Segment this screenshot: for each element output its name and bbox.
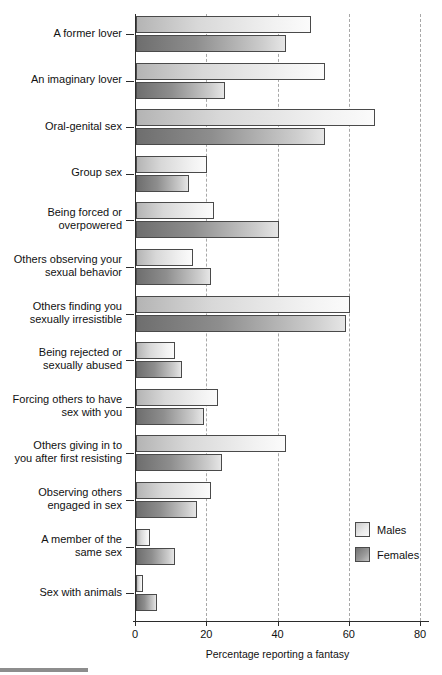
category-label-line: Others observing your: [0, 253, 122, 266]
category-label: An imaginary lover: [0, 73, 122, 86]
bar-males: [136, 529, 150, 546]
bar-females: [136, 408, 204, 425]
chart-legend: Males Females: [355, 522, 419, 572]
category-label: A member of thesame sex: [0, 533, 122, 559]
bar-group: [136, 109, 426, 145]
category-label: Being rejected orsexually abused: [0, 346, 122, 372]
category-label-line: Being forced or: [0, 206, 122, 219]
tick-label-80: 80: [400, 628, 440, 640]
bar-males: [136, 156, 207, 173]
tick-label-20: 20: [186, 628, 226, 640]
bar-females: [136, 454, 222, 471]
bar-females: [136, 82, 225, 99]
category-label: Observing othersengaged in sex: [0, 486, 122, 512]
category-tick: [126, 127, 134, 128]
category-label-line: Forcing others to have: [0, 393, 122, 406]
tick-mark-0: [135, 621, 136, 626]
bar-group: [136, 389, 426, 425]
category-label-line: engaged in sex: [0, 499, 122, 512]
category-label-line: Oral-genital sex: [0, 120, 122, 133]
bar-males: [136, 389, 218, 406]
bar-group: [136, 16, 426, 52]
bar-males: [136, 575, 143, 592]
bar-group: [136, 296, 426, 332]
legend-swatch-females-icon: [355, 547, 370, 562]
bar-males: [136, 16, 311, 33]
bar-females: [136, 175, 189, 192]
bar-group: [136, 435, 426, 471]
category-tick: [126, 547, 134, 548]
category-tick: [126, 407, 134, 408]
category-label-line: Sex with animals: [0, 586, 122, 599]
tick-mark-20: [206, 621, 207, 626]
category-label: Others giving in toyou after first resis…: [0, 439, 122, 465]
category-label: Sex with animals: [0, 586, 122, 599]
category-label: Forcing others to havesex with you: [0, 393, 122, 419]
bar-group: [136, 202, 426, 238]
category-label: Group sex: [0, 166, 122, 179]
bar-group: [136, 63, 426, 99]
category-tick: [126, 220, 134, 221]
legend-label-females: Females: [377, 549, 419, 561]
category-tick: [126, 360, 134, 361]
category-label-line: Being rejected or: [0, 346, 122, 359]
tick-mark-60: [349, 621, 350, 626]
category-tick: [126, 81, 134, 82]
tick-mark-40: [278, 621, 279, 626]
category-label-line: A member of the: [0, 533, 122, 546]
category-label-line: you after first resisting: [0, 452, 122, 465]
bar-group: [136, 575, 426, 611]
category-tick: [126, 500, 134, 501]
bar-females: [136, 548, 175, 565]
category-label: Being forced oroverpowered: [0, 206, 122, 232]
bar-females: [136, 128, 325, 145]
category-label-line: A former lover: [0, 27, 122, 40]
bar-females: [136, 501, 197, 518]
category-tick: [126, 453, 134, 454]
bar-males: [136, 435, 286, 452]
category-label-line: Observing others: [0, 486, 122, 499]
category-label-line: same sex: [0, 546, 122, 559]
bar-males: [136, 342, 175, 359]
category-label-line: Others giving in to: [0, 439, 122, 452]
tick-mark-80: [420, 621, 421, 626]
category-tick: [126, 267, 134, 268]
bar-group: [136, 342, 426, 378]
bar-males: [136, 249, 193, 266]
legend-label-males: Males: [377, 524, 406, 536]
category-label-line: sexual behavior: [0, 266, 122, 279]
category-label: Others observing yoursexual behavior: [0, 253, 122, 279]
category-tick: [126, 174, 134, 175]
bar-group: [136, 482, 426, 518]
bar-females: [136, 594, 157, 611]
bar-females: [136, 221, 279, 238]
bar-females: [136, 361, 182, 378]
category-tick: [126, 34, 134, 35]
bar-males: [136, 482, 211, 499]
category-label: A former lover: [0, 27, 122, 40]
bar-females: [136, 315, 346, 332]
category-label: Oral-genital sex: [0, 120, 122, 133]
category-tick: [126, 314, 134, 315]
x-axis-line: [133, 621, 429, 622]
category-label-line: Others finding you: [0, 300, 122, 313]
bar-males: [136, 202, 214, 219]
bar-group: [136, 249, 426, 285]
tick-label-60: 60: [329, 628, 369, 640]
legend-item-females: Females: [355, 547, 419, 562]
bar-males: [136, 63, 325, 80]
bar-females: [136, 268, 211, 285]
bar-males: [136, 296, 350, 313]
category-label-line: sexually irresistible: [0, 313, 122, 326]
bar-males: [136, 109, 375, 126]
x-axis-title: Percentage reporting a fantasy: [135, 648, 420, 660]
bar-females: [136, 35, 286, 52]
tick-label-40: 40: [258, 628, 298, 640]
bar-group: [136, 156, 426, 192]
legend-swatch-males-icon: [355, 522, 370, 537]
tick-label-0: 0: [115, 628, 155, 640]
category-label-line: Group sex: [0, 166, 122, 179]
category-tick: [126, 593, 134, 594]
fantasy-percentage-bar-chart: 020406080 A former loverAn imaginary lov…: [0, 0, 442, 675]
category-label-line: sexually abused: [0, 359, 122, 372]
